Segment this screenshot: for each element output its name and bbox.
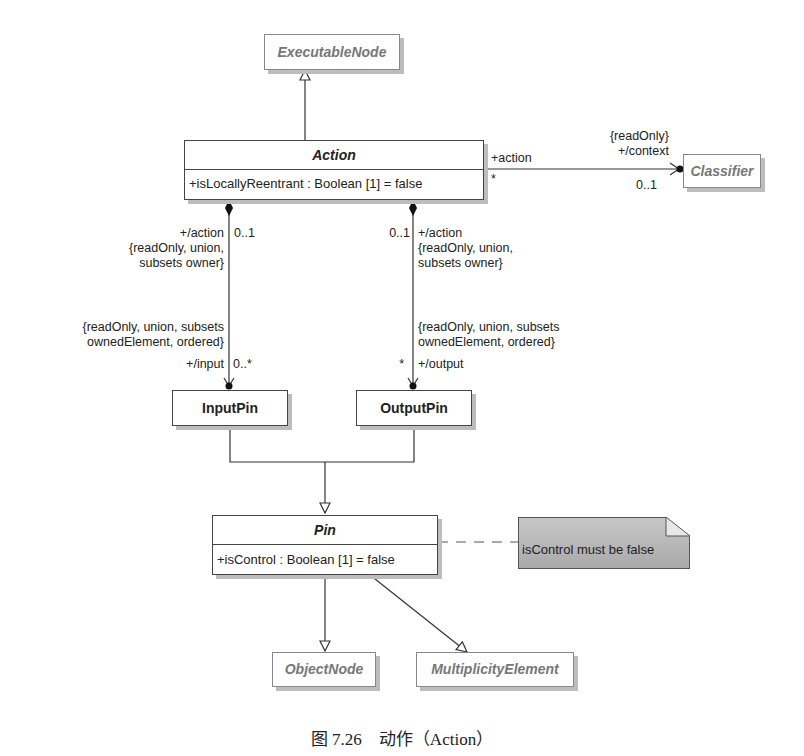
generalization-pins-pin — [230, 426, 414, 462]
class-multiplicity-element[interactable]: MultiplicityElement — [416, 652, 574, 687]
class-name: ObjectNode — [273, 653, 375, 686]
input-end-constraint-line1: {readOnly, union, subsets — [82, 320, 224, 335]
class-name: InputPin — [173, 391, 287, 425]
class-classifier[interactable]: Classifier — [683, 154, 761, 188]
output-end-mult: * — [399, 357, 404, 372]
class-object-node[interactable]: ObjectNode — [272, 652, 376, 687]
output-owner-role: +/action — [418, 226, 462, 241]
class-output-pin[interactable]: OutputPin — [356, 390, 472, 426]
note-text: isControl must be false — [522, 542, 654, 558]
class-name: ExecutableNode — [265, 35, 399, 69]
output-owner-mult: 0..1 — [389, 226, 410, 241]
input-owner-mult: 0..1 — [234, 226, 255, 241]
input-owner-constraint-line1: {readOnly, union, — [129, 241, 224, 256]
assoc-target-constraint: {readOnly} — [610, 129, 669, 144]
input-end-constraint-line2: ownedElement, ordered} — [87, 335, 224, 350]
class-name: MultiplicityElement — [417, 653, 573, 686]
output-owner-constraint-line2: subsets owner} — [418, 256, 503, 271]
class-name: Pin — [213, 516, 437, 544]
input-end-role: +/input — [186, 357, 224, 372]
input-owner-role: +/action — [180, 226, 224, 241]
class-name: Action — [185, 141, 483, 169]
class-name: Classifier — [684, 155, 760, 187]
class-pin[interactable]: Pin +isControl : Boolean [1] = false — [212, 515, 438, 575]
class-executable-node[interactable]: ExecutableNode — [264, 34, 400, 70]
class-name: OutputPin — [357, 391, 471, 425]
class-attribute: +isControl : Boolean [1] = false — [213, 544, 437, 574]
output-end-constraint-line1: {readOnly, union, subsets — [418, 320, 560, 335]
output-owner-constraint-line1: {readOnly, union, — [418, 241, 513, 256]
output-end-role: +/output — [418, 357, 464, 372]
assoc-target-mult: 0..1 — [636, 178, 657, 193]
generalization-pin-multiplicityelement — [370, 575, 467, 652]
class-input-pin[interactable]: InputPin — [172, 390, 288, 426]
note-fold-icon — [665, 516, 691, 538]
input-owner-constraint-line2: subsets owner} — [139, 256, 224, 271]
input-end-mult: 0..* — [233, 357, 252, 372]
connectors — [0, 0, 804, 756]
output-end-constraint-line2: ownedElement, ordered} — [418, 335, 555, 350]
class-attribute: +isLocallyReentrant : Boolean [1] = fals… — [185, 169, 483, 198]
assoc-source-role: +action — [491, 151, 532, 166]
figure-caption: 图 7.26 动作（Action） — [0, 725, 804, 750]
assoc-target-role: +/context — [618, 144, 669, 159]
class-action[interactable]: Action +isLocallyReentrant : Boolean [1]… — [184, 140, 484, 200]
assoc-source-mult: * — [491, 172, 496, 187]
